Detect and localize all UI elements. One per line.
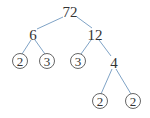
tree-edge-n4-n2c xyxy=(116,69,131,94)
composite-node: 12 xyxy=(88,27,103,43)
tree-nodes: 72612233422 xyxy=(13,4,141,110)
node-label: 12 xyxy=(88,27,103,43)
node-label: 2 xyxy=(97,94,104,109)
node-label: 2 xyxy=(17,54,24,69)
composite-node: 72 xyxy=(63,4,78,20)
prime-factor-node: 2 xyxy=(13,54,28,70)
node-label: 3 xyxy=(44,54,51,69)
node-label: 6 xyxy=(29,27,37,43)
composite-node: 6 xyxy=(29,27,37,43)
factor-tree-diagram: 72612233422 xyxy=(0,0,150,118)
prime-factor-node: 3 xyxy=(71,54,86,70)
tree-edge-n4-n2b xyxy=(101,69,112,94)
node-label: 4 xyxy=(110,55,118,71)
node-label: 2 xyxy=(130,94,137,109)
prime-factor-node: 2 xyxy=(93,94,108,110)
prime-factor-node: 2 xyxy=(126,94,141,110)
node-label: 72 xyxy=(63,4,78,20)
prime-factor-node: 3 xyxy=(40,54,55,70)
tree-edge-n72-n6 xyxy=(37,17,63,29)
node-label: 3 xyxy=(75,54,82,69)
composite-node: 4 xyxy=(110,55,118,71)
